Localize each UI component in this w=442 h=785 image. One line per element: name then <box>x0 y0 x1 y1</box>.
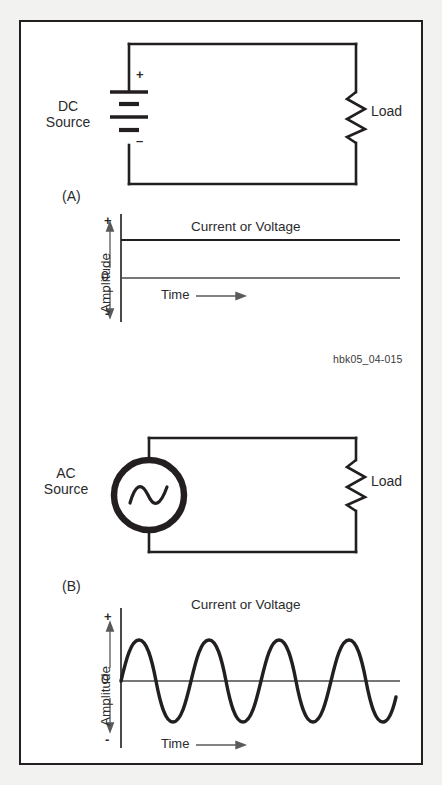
figure-caption-id: hbk05_04-015 <box>333 353 403 365</box>
dc-source-label-line1: DC <box>36 98 100 114</box>
ac-plot-title: Current or Voltage <box>191 597 301 613</box>
ac-load-label: Load <box>371 473 402 489</box>
dc-load-resistor-symbol <box>347 92 365 143</box>
ac-time-arrow <box>196 742 245 749</box>
ac-source-label-line2: Source <box>33 481 99 497</box>
page-background: DC Source + – Load (A) Current or Voltag… <box>0 0 442 785</box>
ac-source-label: AC Source <box>33 465 99 497</box>
dc-plot-plus-tick: + <box>104 214 112 229</box>
dc-source-label-line2: Source <box>36 114 100 130</box>
battery-minus-sign: – <box>136 134 143 149</box>
dc-circuit-wires <box>129 44 356 184</box>
ac-plot-time-label: Time <box>161 737 189 752</box>
panel-b-label: (B) <box>62 578 81 594</box>
dc-plot-amplitude-label: Amplitude <box>98 253 114 313</box>
dc-plot-time-label: Time <box>161 288 189 303</box>
battery-plus-sign: + <box>136 68 144 83</box>
ac-source-symbol <box>114 460 184 530</box>
ac-plot-amplitude-label: Amplitude <box>98 666 114 726</box>
ac-source-label-line1: AC <box>33 465 99 481</box>
dc-plot-title: Current or Voltage <box>191 219 301 235</box>
ac-plot-plus-tick: + <box>104 610 112 625</box>
dc-load-label: Load <box>371 103 402 119</box>
dc-source-label: DC Source <box>36 98 100 130</box>
ac-plot-minus-tick: - <box>105 733 109 748</box>
dc-time-arrow <box>196 293 245 300</box>
panel-a-label: (A) <box>62 188 81 204</box>
battery-symbol <box>110 92 148 130</box>
ac-load-resistor-symbol <box>347 460 365 511</box>
